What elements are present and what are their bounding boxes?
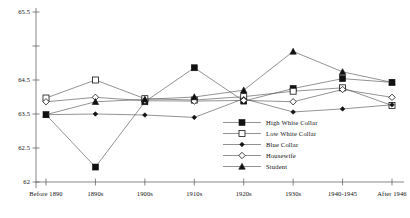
chart-legend: High White CollarLow White CollarBlue Co… [222, 117, 340, 172]
y-tick-label: 65.5 [0, 8, 30, 15]
open-square-icon [222, 128, 262, 139]
filled-diamond-icon [222, 139, 262, 150]
legend-label: Low White Collar [262, 130, 316, 137]
legend-label: Blue Collar [262, 141, 298, 148]
legend-item-blue-collar: Blue Collar [222, 139, 340, 150]
legend-item-student: Student [222, 161, 340, 172]
line-chart: 65.564.563.562.562 Before 18901890s1900s… [0, 0, 410, 218]
legend-label: Housewife [262, 152, 296, 159]
legend-item-high-white-collar: High White Collar [222, 117, 340, 128]
x-tick-label: After 1946 [362, 190, 410, 197]
filled-triangle-icon [222, 161, 262, 172]
legend-label: Student [262, 163, 287, 170]
y-tick-label: 64.5 [0, 76, 30, 83]
plot-area [0, 0, 410, 218]
legend-item-low-white-collar: Low White Collar [222, 128, 340, 139]
open-diamond-icon [222, 150, 262, 161]
y-tick-label: 63.5 [0, 110, 30, 117]
filled-square-icon [222, 117, 262, 128]
y-tick-label: 62 [0, 178, 30, 185]
legend-label: High White Collar [262, 119, 318, 126]
series-layer [43, 48, 395, 170]
legend-item-housewife: Housewife [222, 150, 340, 161]
y-tick-label: 62.5 [0, 144, 30, 151]
